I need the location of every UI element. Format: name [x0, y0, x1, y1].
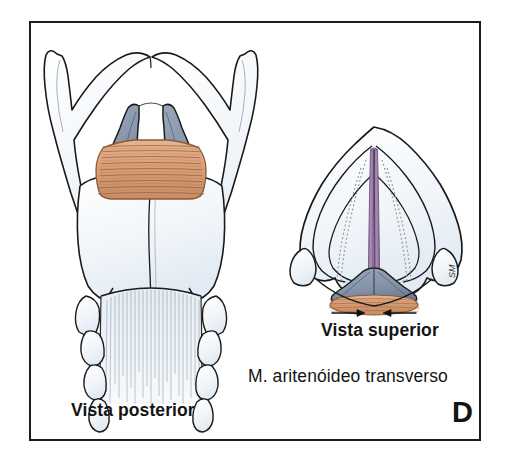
transverse-arytenoid-muscle-superior: [329, 295, 420, 315]
label-vista-posterior: Vista posterior: [71, 400, 195, 421]
thyroid-notch-line: [150, 57, 151, 68]
trachea-posterior: [99, 288, 203, 404]
panel-letter: D: [452, 396, 473, 429]
cricoarytenoid-nodule-left: [75, 296, 99, 335]
vocal-folds-superior: [369, 148, 380, 274]
cricoarytenoid-nodule-right: [202, 296, 226, 335]
label-muscle-caption: M. aritenóideo transverso: [248, 366, 448, 387]
figure-panel: SM Vista posterior Vista superior M. ari…: [0, 0, 507, 464]
transverse-arytenoid-muscle-posterior: [94, 140, 209, 199]
superior-view-drawing: SM: [290, 127, 462, 317]
anatomical-illustration: SM: [0, 0, 507, 464]
interarytenoid-notch: [139, 103, 163, 106]
artist-signature: SM: [447, 264, 457, 278]
corniculate-bulge-left: [290, 249, 316, 286]
label-vista-superior: Vista superior: [321, 320, 439, 341]
posterior-view-drawing: [44, 51, 258, 432]
